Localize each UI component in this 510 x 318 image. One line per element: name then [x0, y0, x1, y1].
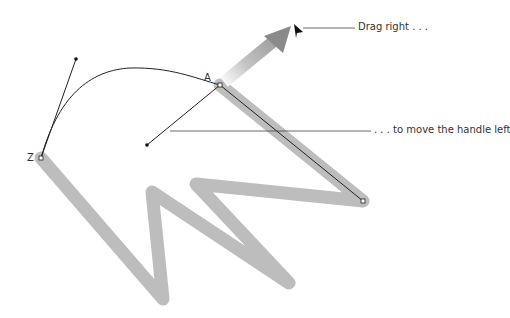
annotation-handle: . . . to move the handle left — [374, 124, 510, 135]
point-label-a: A — [204, 72, 211, 83]
annotation-drag: Drag right . . . — [358, 21, 428, 32]
drag-arrow-icon — [224, 26, 291, 82]
point-label-z: Z — [27, 152, 34, 163]
handle-line-a — [147, 85, 220, 145]
anchor-point-z[interactable] — [39, 156, 43, 160]
stroke-path — [41, 85, 363, 299]
cursor-icon — [294, 24, 303, 38]
handle-point-a[interactable] — [145, 143, 149, 147]
anchor-point-a[interactable] — [218, 83, 222, 87]
anchor-point-end[interactable] — [361, 199, 365, 203]
handle-line-z — [41, 59, 76, 158]
handle-point-z[interactable] — [74, 57, 78, 61]
